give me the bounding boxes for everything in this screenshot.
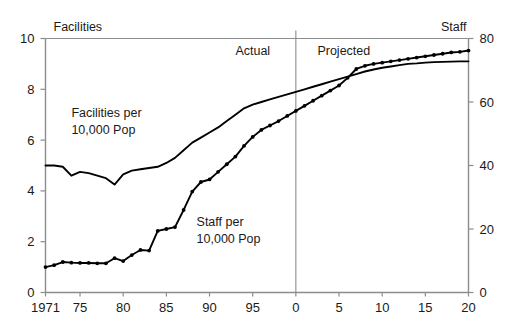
series-marker <box>130 253 134 257</box>
series-marker <box>449 51 453 55</box>
series-marker <box>363 64 367 68</box>
x-tick-label: 20 <box>461 300 475 315</box>
series-marker <box>251 135 255 139</box>
series-marker <box>259 128 263 132</box>
series-marker <box>458 50 462 54</box>
x-tick-label: 80 <box>116 300 130 315</box>
series-marker <box>95 261 99 265</box>
left-tick-label: 4 <box>27 183 34 198</box>
series-marker <box>113 256 117 260</box>
left-tick-label: 2 <box>27 234 34 249</box>
series-marker <box>389 59 393 63</box>
series-marker <box>320 94 324 98</box>
series-marker <box>121 259 125 263</box>
series-marker <box>52 263 56 267</box>
series-marker <box>337 84 341 88</box>
right-axis-title: Staff <box>441 20 467 34</box>
series-marker <box>415 56 419 60</box>
right-tick-label: 80 <box>480 31 494 46</box>
projected-label: Projected <box>317 44 370 58</box>
series-marker <box>208 178 212 182</box>
left-tick-label: 10 <box>20 31 34 46</box>
right-tick-label: 60 <box>480 95 494 110</box>
series-marker <box>78 261 82 265</box>
x-tick-label: 85 <box>159 300 173 315</box>
series-marker <box>164 227 168 231</box>
left-tick-label: 8 <box>27 82 34 97</box>
series-marker <box>104 261 108 265</box>
x-tick-label: 0 <box>292 300 299 315</box>
series-marker <box>70 261 74 265</box>
series-marker <box>285 114 289 118</box>
series-marker <box>139 248 143 252</box>
x-tick-label: 10 <box>375 300 389 315</box>
dual-axis-line-chart: 1971758085909505101520 0246810 020406080… <box>0 0 517 329</box>
facilities-series-label-2: 10,000 Pop <box>71 123 135 137</box>
series-marker <box>199 180 203 184</box>
x-tick-label: 90 <box>202 300 216 315</box>
series-marker <box>87 261 91 265</box>
series-marker <box>190 190 194 194</box>
right-tick-label: 0 <box>480 285 487 300</box>
series-marker <box>216 170 220 174</box>
series-marker <box>432 53 436 57</box>
x-tick-label: 1971 <box>31 300 60 315</box>
series-marker <box>44 265 48 269</box>
series-marker <box>380 61 384 65</box>
series-marker <box>242 144 246 148</box>
series-marker <box>311 99 315 103</box>
series-marker <box>303 104 307 108</box>
series-marker <box>372 62 376 66</box>
series-marker <box>182 208 186 212</box>
series-marker <box>398 58 402 62</box>
series-marker <box>294 109 298 113</box>
left-tick-label: 0 <box>27 285 34 300</box>
left-tick-label: 6 <box>27 133 34 148</box>
x-tick-label: 75 <box>73 300 87 315</box>
series-marker <box>328 89 332 93</box>
series-marker <box>346 76 350 80</box>
actual-label: Actual <box>235 44 270 58</box>
series-marker <box>423 54 427 58</box>
series-marker <box>225 162 229 166</box>
series-marker <box>406 57 410 61</box>
x-tick-label: 15 <box>418 300 432 315</box>
facilities-series-label: Facilities per <box>71 106 141 120</box>
series-marker <box>147 249 151 253</box>
series-marker <box>61 260 65 264</box>
right-tick-label: 20 <box>480 222 494 237</box>
series-marker <box>234 155 238 159</box>
staff-series-label: Staff per <box>197 215 244 229</box>
staff-series-label-2: 10,000 Pop <box>197 232 261 246</box>
series-marker <box>277 119 281 123</box>
x-tick-label: 5 <box>335 300 342 315</box>
right-tick-label: 40 <box>480 158 494 173</box>
series-marker <box>441 52 445 56</box>
series-marker <box>354 67 358 71</box>
left-axis-title: Facilities <box>54 20 103 34</box>
chart-container: 1971758085909505101520 0246810 020406080… <box>0 0 517 329</box>
series-marker <box>156 229 160 233</box>
series-marker <box>268 124 272 128</box>
x-tick-label: 95 <box>245 300 259 315</box>
series-marker <box>173 225 177 229</box>
series-marker <box>467 49 471 53</box>
